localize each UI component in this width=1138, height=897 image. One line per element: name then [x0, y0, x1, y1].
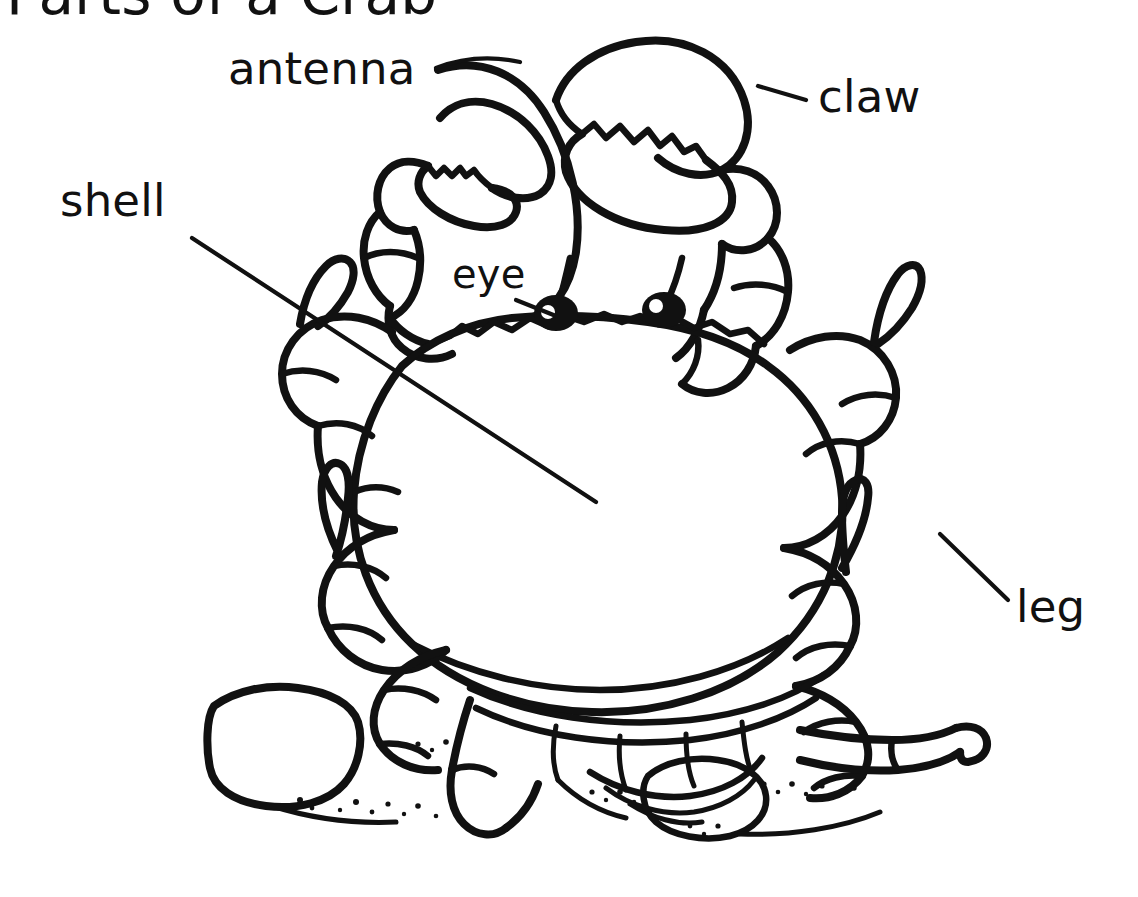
right-leg-2 [784, 479, 868, 686]
right-legs [784, 265, 987, 798]
page-title: Parts of a Crab [6, 0, 437, 28]
left-eye [534, 295, 578, 331]
rock-left [207, 687, 360, 807]
label-eye: eye [452, 251, 526, 297]
right-claw [556, 40, 788, 392]
crab-anatomy-illustration: Parts of a Crab [0, 0, 1138, 897]
right-eye-highlight [649, 299, 663, 313]
left-leg-2 [322, 463, 446, 671]
label-antenna: antenna [228, 42, 415, 95]
diagram-canvas: Parts of a Crab [0, 0, 1138, 897]
page-title-group: Parts of a Crab [6, 0, 437, 28]
left-legs [282, 259, 538, 835]
leader-lines [192, 59, 1008, 600]
left-leg-4 [451, 700, 539, 834]
leader-line-leg [940, 534, 1008, 600]
right-eye [642, 292, 686, 328]
label-leg: leg [1016, 580, 1085, 633]
label-claw: claw [818, 70, 920, 123]
crab-figure [207, 40, 987, 838]
right-leg-4 [800, 726, 987, 770]
leader-line-claw [758, 86, 806, 100]
label-shell: shell [60, 174, 166, 227]
leader-line-shell [192, 238, 596, 502]
